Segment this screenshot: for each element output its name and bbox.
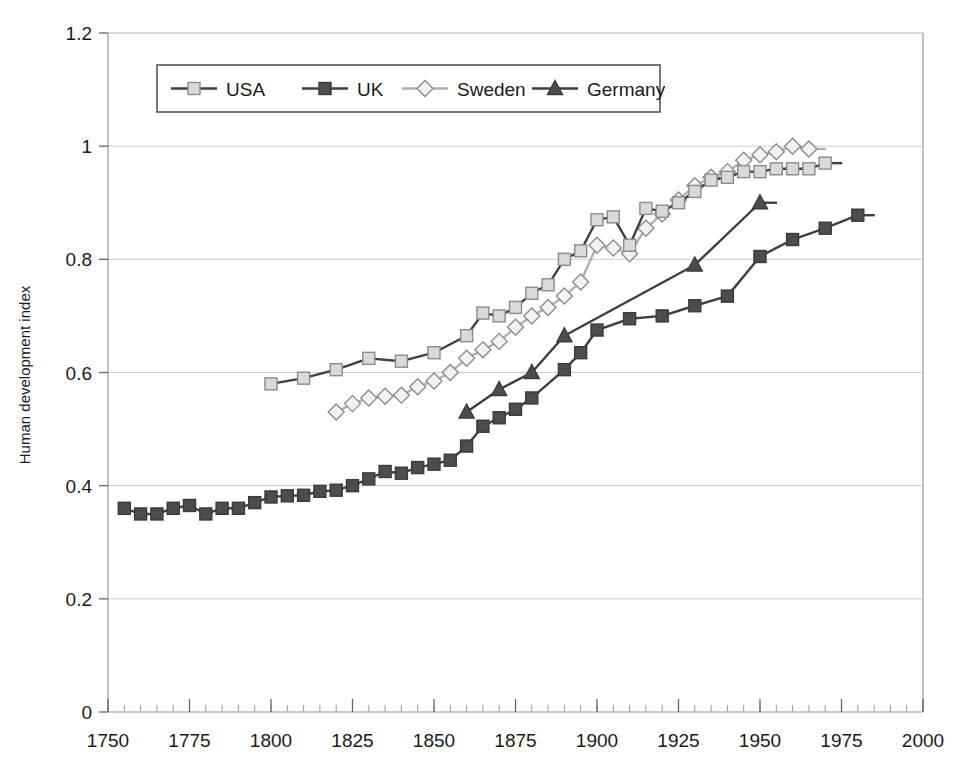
data-point-marker [803,163,815,175]
data-point-marker [721,171,733,183]
data-point-marker [673,197,685,209]
data-point-marker [265,378,277,390]
y-tick-label: 0.2 [66,589,92,610]
data-point-marker [118,502,130,514]
x-tick-label: 1850 [413,730,455,751]
data-point-marker [770,163,782,175]
chart-background [0,0,953,769]
x-tick-label: 1925 [657,730,699,751]
chart-container: 00.20.40.60.811.2 1750177518001825185018… [0,0,953,769]
data-point-marker [640,202,652,214]
data-point-marker [493,412,505,424]
data-point-marker [787,163,799,175]
legend-label: Sweden [457,79,526,100]
data-point-marker [542,279,554,291]
data-point-marker [216,502,228,514]
data-point-marker [363,473,375,485]
x-tick-label: 2000 [902,730,944,751]
data-point-marker [135,508,147,520]
data-point-marker [705,174,717,186]
data-point-marker [363,352,375,364]
data-point-marker [298,372,310,384]
data-point-marker [624,239,636,251]
data-point-marker [184,499,196,511]
data-point-marker [575,347,587,359]
data-point-marker [319,83,331,95]
data-point-marker [558,253,570,265]
data-point-marker [477,307,489,319]
data-point-marker [281,490,293,502]
data-point-marker [395,355,407,367]
data-point-marker [493,310,505,322]
data-point-marker [428,458,440,470]
y-tick-label: 1 [81,136,92,157]
x-tick-label: 1825 [331,730,373,751]
data-point-marker [624,313,636,325]
legend-label: USA [226,79,265,100]
legend-label: Germany [587,79,666,100]
data-point-marker [428,347,440,359]
legend-label: UK [357,79,384,100]
data-point-marker [298,489,310,501]
y-tick-label: 0.8 [66,249,92,270]
data-point-marker [689,300,701,312]
data-point-marker [558,364,570,376]
data-point-marker [200,508,212,520]
y-tick-label: 1.2 [66,23,92,44]
data-point-marker [754,251,766,263]
data-point-marker [188,83,200,95]
data-point-marker [689,185,701,197]
human-development-index-line-chart: 00.20.40.60.811.2 1750177518001825185018… [0,0,953,769]
data-point-marker [330,364,342,376]
x-tick-label: 1875 [494,730,536,751]
data-point-marker [754,166,766,178]
data-point-marker [526,287,538,299]
data-point-marker [151,508,163,520]
x-tick-label: 1800 [250,730,292,751]
data-point-marker [461,440,473,452]
data-point-marker [575,245,587,257]
x-tick-label: 1950 [739,730,781,751]
data-point-marker [721,290,733,302]
x-tick-label: 1975 [820,730,862,751]
data-point-marker [232,502,244,514]
data-point-marker [379,466,391,478]
data-point-marker [265,491,277,503]
data-point-marker [249,497,261,509]
x-tick-label: 1900 [576,730,618,751]
data-point-marker [852,209,864,221]
data-point-marker [738,166,750,178]
chart-legend: USAUKSwedenGermany [157,65,666,112]
data-point-marker [819,157,831,169]
y-tick-label: 0.6 [66,363,92,384]
data-point-marker [477,420,489,432]
data-point-marker [395,467,407,479]
data-point-marker [510,403,522,415]
data-point-marker [787,234,799,246]
data-point-marker [526,392,538,404]
data-point-marker [347,480,359,492]
y-tick-label: 0 [81,702,92,723]
data-point-marker [167,502,179,514]
data-point-marker [444,454,456,466]
data-point-marker [591,214,603,226]
data-point-marker [607,211,619,223]
data-point-marker [510,301,522,313]
x-tick-label: 1775 [168,730,210,751]
x-tick-label: 1750 [87,730,129,751]
data-point-marker [330,484,342,496]
y-axis-title: Human development index [16,285,33,464]
data-point-marker [461,330,473,342]
data-point-marker [656,310,668,322]
data-point-marker [412,462,424,474]
data-point-marker [819,222,831,234]
y-tick-label: 0.4 [66,476,93,497]
data-point-marker [314,485,326,497]
data-point-marker [591,324,603,336]
data-point-marker [656,205,668,217]
